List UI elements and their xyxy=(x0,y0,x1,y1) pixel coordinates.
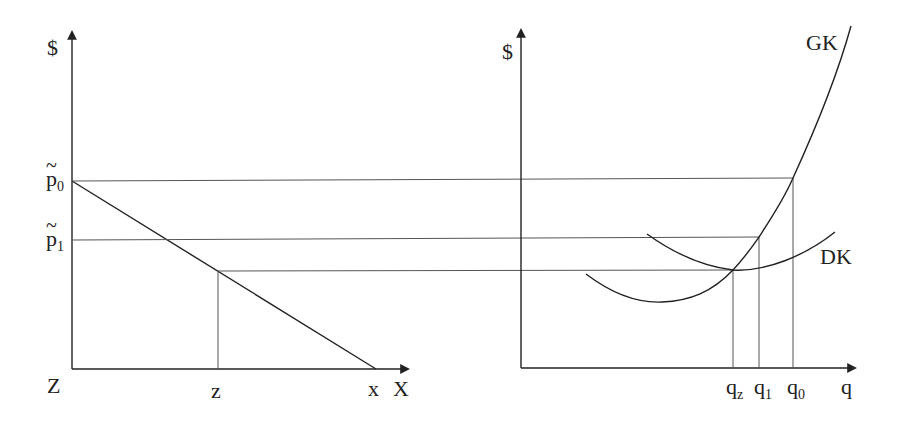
p0-sub: 0 xyxy=(57,179,64,194)
p1-tick-label: p1 xyxy=(46,228,64,254)
q0-tick-label: q0 xyxy=(787,376,805,402)
z-tick-label: z xyxy=(211,380,221,402)
right-y-axis-label: $ xyxy=(502,41,513,63)
p0-base: p xyxy=(46,168,57,190)
q1-sub: 1 xyxy=(765,387,772,402)
x-tick-label: x xyxy=(368,378,379,400)
gk-curve-label: GK xyxy=(806,32,838,54)
dk-curve-label: DK xyxy=(820,246,852,268)
right-x-axis-label: q xyxy=(841,376,852,398)
gk-curve xyxy=(586,26,851,302)
left-y-axis-label: $ xyxy=(47,37,58,59)
qz-sub: z xyxy=(737,387,743,402)
demand-line xyxy=(72,181,376,369)
left-x-axis-label: X xyxy=(393,378,409,400)
qz-tick-label: qz xyxy=(726,376,743,402)
q1-tick-label: q1 xyxy=(754,376,772,402)
diagram-canvas xyxy=(0,0,901,421)
q0-base: q xyxy=(787,374,798,399)
q1-base: q xyxy=(754,374,765,399)
pz-guide xyxy=(218,270,733,271)
q0-sub: 0 xyxy=(798,387,805,402)
p0-tick-label: p0 xyxy=(46,168,64,194)
qz-base: q xyxy=(726,374,737,399)
p1-sub: 1 xyxy=(57,239,64,254)
origin-label: Z xyxy=(47,375,60,397)
p1-base: p xyxy=(46,228,57,250)
p0-guide xyxy=(72,178,793,181)
